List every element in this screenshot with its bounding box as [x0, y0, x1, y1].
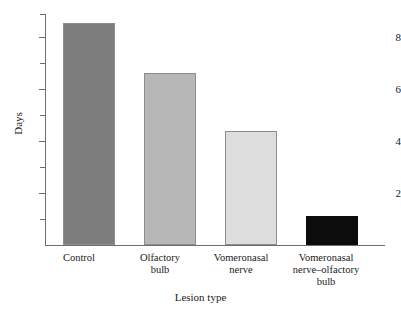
x-label-vomeronasal-nerve-line1: Vomeronasal [195, 252, 287, 264]
y-axis-title: Days [13, 94, 24, 154]
x-label-vn-ob-line1: Vomeronasal [276, 252, 376, 264]
x-label-vomeronasal-nerve-olfactory-bulb: Vomeronasal nerve–olfactory bulb [276, 252, 376, 288]
x-label-vomeronasal-nerve-line2: nerve [195, 264, 287, 276]
plot-area [45, 14, 385, 245]
x-label-olfactory-bulb: Olfactory bulb [114, 252, 206, 276]
bar-vomeronasal-nerve [225, 131, 277, 245]
x-label-vn-ob-line3: bulb [276, 276, 376, 288]
bar-vomeronasal-nerve-olfactory-bulb [306, 216, 358, 245]
x-axis-title: Lesion type [0, 291, 401, 303]
x-label-vomeronasal-nerve: Vomeronasal nerve [195, 252, 287, 276]
bar-chart-figure: 2 4 6 8 Days Control Olfactory bulb Vome… [0, 0, 401, 318]
x-label-control: Control [33, 252, 125, 264]
x-label-olfactory-bulb-line1: Olfactory [114, 252, 206, 264]
x-label-olfactory-bulb-line2: bulb [114, 264, 206, 276]
bar-control [63, 23, 115, 245]
x-label-vn-ob-line2: nerve–olfactory [276, 264, 376, 276]
bar-olfactory-bulb [144, 73, 196, 245]
x-label-control-line1: Control [33, 252, 125, 264]
x-axis-line [45, 245, 385, 246]
